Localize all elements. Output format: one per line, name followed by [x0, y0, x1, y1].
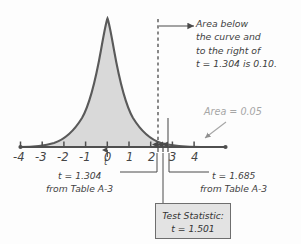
area-005-label: Area = 0.05 [204, 106, 262, 117]
tick-label-2: 2 [148, 150, 156, 164]
test-statistic-value: t = 1.501 [156, 223, 230, 235]
critical-left-line-1: t = 1.304 [58, 170, 101, 181]
axis-variable-label: t [104, 157, 107, 167]
critical-right-line-1: t = 1.685 [212, 170, 255, 181]
tick-label-minus3: -3 [35, 150, 47, 164]
critical-left-line-2: from Table A-3 [46, 183, 113, 194]
tick-label-minus4: -4 [13, 150, 25, 164]
area-label-leader-arrow [205, 122, 226, 138]
tick-label-minus1: -1 [79, 150, 91, 164]
main-annotation-line-3: to the right of [196, 44, 300, 57]
test-statistic-box: Test Statistic: t = 1.501 [155, 203, 231, 239]
axis-right-cap [223, 145, 227, 149]
critical-right-line-2: from Table A-3 [200, 183, 267, 194]
figure-canvas: -4 -3 -2 -1 0 1 2 3 4 t Area below the c… [0, 0, 301, 244]
main-annotation-line-1: Area below [196, 17, 300, 30]
tick-label-4: 4 [191, 150, 199, 164]
main-annotation-line-2: the curve and [196, 30, 300, 43]
main-annotation-line-4: t = 1.304 is 0.10. [196, 57, 300, 70]
light-shaded-area [20, 19, 195, 148]
main-annotation: Area below the curve and to the right of… [196, 17, 300, 71]
test-statistic-title: Test Statistic: [156, 210, 230, 222]
tick-label-3: 3 [169, 150, 177, 164]
tick-label-minus2: -2 [57, 150, 69, 164]
tick-label-1: 1 [126, 150, 134, 164]
